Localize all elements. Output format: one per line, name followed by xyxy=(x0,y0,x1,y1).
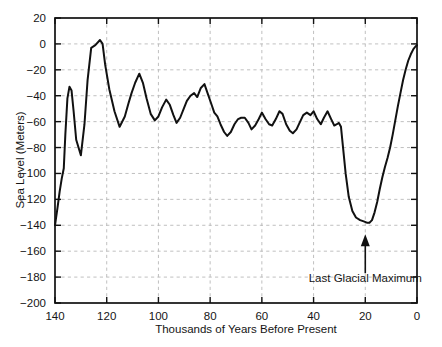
y-tick-label: −180 xyxy=(20,271,46,283)
y-tick-label: −160 xyxy=(20,245,46,257)
x-tick-label: 80 xyxy=(204,310,217,322)
y-tick-label: −80 xyxy=(26,142,46,154)
y-tick-label: −140 xyxy=(20,219,46,231)
y-tick-label: −200 xyxy=(20,297,46,309)
y-tick-label: −40 xyxy=(26,90,46,102)
x-tick-label: 140 xyxy=(45,310,64,322)
x-tick-label: 0 xyxy=(414,310,420,322)
y-axis-title: Sea Level (Meters) xyxy=(14,111,26,208)
y-tick-label: −20 xyxy=(26,64,46,76)
x-axis-title: Thousands of Years Before Present xyxy=(155,323,337,335)
chart-svg: 200−20−40−60−80−100−120−140−160−180−200 … xyxy=(0,0,442,347)
y-tick-label: −60 xyxy=(26,116,46,128)
x-tick-label: 20 xyxy=(359,310,372,322)
x-tick-label: 60 xyxy=(255,310,268,322)
x-tick-label: 100 xyxy=(149,310,168,322)
x-tick-label: 40 xyxy=(307,310,320,322)
x-tick-label: 120 xyxy=(97,310,116,322)
sea-level-chart-figure: 200−20−40−60−80−100−120−140−160−180−200 … xyxy=(0,0,442,347)
y-tick-label: 0 xyxy=(40,38,46,50)
y-tick-label: 20 xyxy=(33,12,46,24)
last-glacial-maximum-label: Last Glacial Maximum xyxy=(309,272,422,284)
